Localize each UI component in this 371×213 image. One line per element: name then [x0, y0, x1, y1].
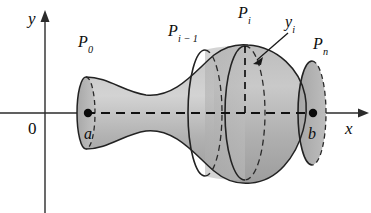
x-axis-label: x: [345, 120, 353, 137]
label-Pi: Pi: [238, 5, 251, 24]
label-Pn-sub: n: [323, 46, 328, 57]
label-Pi-sub: i: [248, 15, 251, 26]
y-axis-label: y: [28, 10, 36, 27]
label-P0-sub: 0: [88, 44, 93, 55]
label-Pn-base: P: [313, 35, 323, 52]
point-dot-a: [84, 109, 92, 117]
label-Pi-1: Pi − 1: [168, 23, 198, 42]
label-y-sub-i: yi: [285, 14, 295, 33]
point-label-a: a: [84, 126, 92, 142]
label-Pi-1-sub: i − 1: [178, 33, 198, 44]
point-label-b: b: [308, 126, 316, 142]
figure-canvas: y 0 x a b P0 Pi − 1 Pi Pn yi: [0, 0, 371, 213]
x-axis-arrowhead: [358, 109, 369, 118]
label-P0: P0: [78, 34, 93, 53]
label-P0-base: P: [78, 33, 88, 50]
label-y-sub-i-sub: i: [292, 24, 295, 35]
origin-label: 0: [28, 120, 37, 137]
y-axis-arrowhead: [41, 10, 50, 22]
point-dot-b: [309, 109, 317, 117]
label-Pn: Pn: [313, 36, 328, 55]
label-Pi-base: P: [238, 4, 248, 21]
label-Pi-1-base: P: [168, 22, 178, 39]
